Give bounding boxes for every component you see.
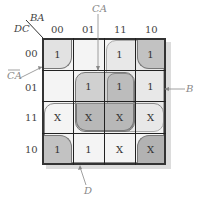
callout-arrows bbox=[0, 0, 197, 199]
